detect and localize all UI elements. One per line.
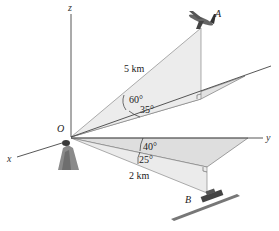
point-a-label: A <box>214 8 222 19</box>
point-b-label: B <box>185 194 191 205</box>
ob-elevation-angle: 40° <box>143 141 157 152</box>
vector-diagram: z x y O A B 5 km 60° 35° 40° 25° 2 km <box>0 0 279 231</box>
volcano-icon <box>58 140 79 170</box>
plane-a-vertical <box>71 28 201 137</box>
oa-azimuth-angle: 35° <box>140 104 154 115</box>
x-axis-label: x <box>6 153 12 164</box>
ship-icon <box>171 188 240 221</box>
z-axis-label: z <box>67 2 72 13</box>
origin-label: O <box>57 123 64 134</box>
ob-length-label: 2 km <box>129 170 150 181</box>
x-axis <box>17 143 62 157</box>
ob-azimuth-angle: 25° <box>139 154 153 165</box>
oa-length-label: 5 km <box>124 63 145 74</box>
airplane-icon <box>188 11 216 29</box>
y-axis-label: y <box>265 132 271 143</box>
